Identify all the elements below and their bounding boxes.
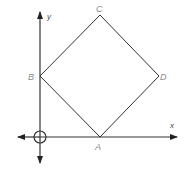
square-abcd: [40, 15, 159, 137]
vertex-label-a: A: [94, 142, 101, 152]
coordinate-diagram: x y A B C D: [0, 0, 189, 171]
vertex-label-b: B: [28, 72, 34, 82]
vertex-label-c: C: [96, 4, 103, 14]
x-axis-label: x: [169, 121, 175, 130]
y-axis-label: y: [46, 12, 52, 21]
vertex-label-d: D: [160, 72, 167, 82]
